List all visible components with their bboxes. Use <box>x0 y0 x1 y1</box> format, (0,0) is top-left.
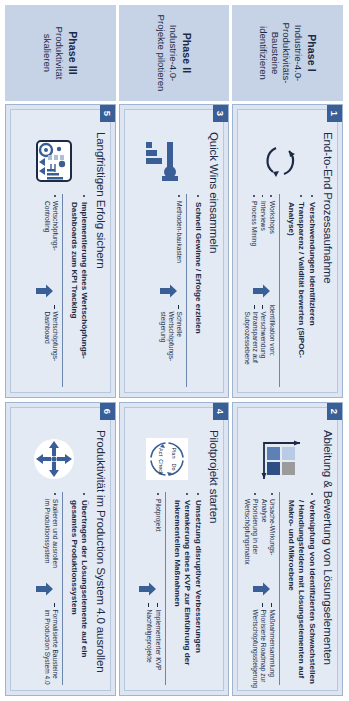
svg-text:Plan: Plan <box>171 448 177 459</box>
input-detail-list: Pilotprojekt <box>154 492 162 575</box>
input-detail-list: Ursache-Wirkungs-AnalysePriorisierung in… <box>243 492 276 575</box>
step-bullet: Verankerung eines KVP zur Einführung der… <box>172 492 193 685</box>
step-card-inner: Pilotprojekt startenPlanDoActCheckUmsetz… <box>124 407 225 691</box>
output-detail-list: Schnelle Wertschöpfungs-steigerung <box>159 305 184 388</box>
step-card-inner: Quick Wins einsammelnSchnell Gewinne / E… <box>124 109 225 393</box>
step-title: Pilotprojekt starten <box>207 430 220 685</box>
output-detail-column: Formalisierte Bausteine im Production Sy… <box>42 603 59 686</box>
output-detail-heading: Identifikation von: <box>267 305 275 388</box>
output-detail-column: Schnelle Wertschöpfungs-steigerung <box>158 305 183 388</box>
step-body: Verknüpfung von identifizierten Schwachs… <box>242 430 317 685</box>
up-arrow-icon <box>253 283 276 299</box>
step-text-column: Verknüpfung von identifizierten Schwachs… <box>242 492 317 685</box>
step-number-badge: 3 <box>213 105 228 122</box>
step-detail-area: PilotprojektImplementierter KVPNachfolge… <box>139 492 162 685</box>
step-bullet: Transparenz / Validität bewerten (SIPOC-… <box>285 194 306 387</box>
input-detail-item: Workshops <box>267 194 275 277</box>
output-detail-item: Implementierter KVP <box>154 603 162 686</box>
phase-subtitle: Produktivität skalieren <box>42 10 65 96</box>
step-detail-area: Ursache-Wirkungs-AnalysePriorisierung in… <box>242 492 276 685</box>
output-detail-item: Schnelle Wertschöpfungs-steigerung <box>159 305 184 388</box>
input-detail-list: Methoden-baukasten <box>175 194 183 277</box>
phase-label-3: Phase IIIProduktivität skalieren <box>5 5 116 101</box>
step-card-2[interactable]: 2Ableitung & Bewertung von Lösungselemen… <box>232 402 343 696</box>
input-detail-column: Skalieren und ausrollen im Produktionssy… <box>42 492 59 575</box>
divider <box>165 492 166 685</box>
output-detail-item: Maßnahmensammlung <box>268 603 276 686</box>
phase-title: Phase III <box>66 31 79 75</box>
step-bullet: Implementierung eines Wertschöpfungs-Das… <box>69 194 90 387</box>
step-text-column: Implementierung eines Wertschöpfungs-Das… <box>15 194 90 387</box>
input-detail-item: Pilotprojekt <box>154 492 162 575</box>
step-detail-area: Wertschöpfungs-ControllingWertschöpfungs… <box>36 194 59 387</box>
output-detail-column: Implementierter KVPNachfolgeprojekte <box>145 603 162 686</box>
output-detail-column: MaßnahmensammlungPriorisierte Roadmap zu… <box>251 603 277 686</box>
output-detail-item: Verschwendung <box>259 305 267 388</box>
step-number-badge: 5 <box>100 105 115 122</box>
divider <box>186 194 187 387</box>
step-bullet: Übertragen der Lösungselemente auf ein g… <box>69 492 90 685</box>
step-bullet: Verschwendungen identifizieren <box>306 194 316 387</box>
output-detail-item: Formalisierte Bausteine im Production Sy… <box>43 603 59 686</box>
phase-cards: 5Langfristigen Erfolg sichernImplementie… <box>5 104 116 696</box>
step-bullet-list: Implementierung eines Wertschöpfungs-Das… <box>68 194 89 387</box>
svg-text:Do: Do <box>171 464 177 471</box>
input-detail-list: Skalieren und ausrollen im Produktionssy… <box>43 492 59 575</box>
output-detail-list: Formalisierte Bausteine im Production Sy… <box>43 603 59 686</box>
step-number-badge: 1 <box>327 105 342 122</box>
step-bullet-list: Verknüpfung von identifizierten Schwachs… <box>285 492 317 685</box>
pdca-cycle-icon: PlanDoActCheck <box>129 430 204 488</box>
output-detail-item: Priorisierte Roadmap zur Wertschöpfungss… <box>251 603 267 686</box>
cycle-arrows-icon <box>242 132 317 190</box>
step-body: Schnell Gewinne / Erfolge erzielenMethod… <box>129 132 204 387</box>
up-arrow-icon <box>139 581 162 597</box>
phase-subtitle: Industrie-4.0-Produktivitäts-Bausteine i… <box>257 10 304 96</box>
step-card-4[interactable]: 4Pilotprojekt startenPlanDoActCheckUmset… <box>119 402 230 696</box>
output-detail-item: Nachfolgeprojekte <box>145 603 153 686</box>
step-text-column: Verschwendungen identifizierenTransparen… <box>242 194 317 387</box>
phase-cards: 1End-to-End ProzessaufnahmeVerschwendung… <box>232 104 343 696</box>
step-card-1[interactable]: 1End-to-End ProzessaufnahmeVerschwendung… <box>232 104 343 398</box>
matrix-quadrant-icon <box>242 430 317 488</box>
step-number-badge: 2 <box>327 403 342 420</box>
input-detail-item: Skalieren und ausrollen im Produktionssy… <box>43 492 59 575</box>
phase-row-2: Phase IIIndustrie-4.0-Projekte pilotiere… <box>119 5 230 696</box>
input-detail-column: Wertschöpfungs-Controlling <box>42 194 59 277</box>
svg-text:Act: Act <box>158 448 164 456</box>
step-bullet-list: Verschwendungen identifizierenTransparen… <box>285 194 317 387</box>
phase-row-1: Phase IIndustrie-4.0-Produktivitäts-Baus… <box>232 5 343 696</box>
step-number-badge: 4 <box>213 403 228 420</box>
step-card-inner: Produktivität im Production System 4.0 a… <box>10 407 111 691</box>
input-detail-item: Ursache-Wirkungs-Analyse <box>260 492 276 575</box>
step-body: PlanDoActCheckUmsetzung disruptiver Verb… <box>129 430 204 685</box>
step-card-6[interactable]: 6Produktivität im Production System 4.0 … <box>5 402 116 696</box>
step-number-badge: 6 <box>100 403 115 420</box>
step-card-5[interactable]: 5Langfristigen Erfolg sichernImplementie… <box>5 104 116 398</box>
input-detail-item: Methoden-baukasten <box>175 194 183 277</box>
step-card-inner: Langfristigen Erfolg sichernImplementier… <box>10 109 111 393</box>
step-detail-area: Methoden-baukastenSchnelle Wertschöpfung… <box>158 194 183 387</box>
input-detail-list: Wertschöpfungs-Controlling <box>43 194 59 277</box>
phase-label-1: Phase IIndustrie-4.0-Produktivitäts-Baus… <box>232 5 343 101</box>
step-body: Übertragen der Lösungselemente auf ein g… <box>15 430 90 685</box>
step-title: Quick Wins einsammeln <box>207 132 220 387</box>
step-card-3[interactable]: 3Quick Wins einsammelnSchnell Gewinne / … <box>119 104 230 398</box>
step-bullet-list: Übertragen der Lösungselemente auf ein g… <box>68 492 89 685</box>
output-detail-column: Wertschöpfungs-Dashboard <box>42 305 59 388</box>
input-detail-column: Ursache-Wirkungs-AnalysePriorisierung in… <box>242 492 276 575</box>
output-detail-list: Wertschöpfungs-Dashboard <box>43 305 59 388</box>
step-text-column: Umsetzung disruptiver VerbesserungenVera… <box>129 492 204 685</box>
phase-label-2: Phase IIIndustrie-4.0-Projekte pilotiere… <box>119 5 230 101</box>
up-arrow-icon <box>253 581 276 597</box>
divider <box>279 492 280 685</box>
diagram-canvas: Phase IIndustrie-4.0-Produktivitäts-Baus… <box>0 0 349 701</box>
step-bullet: Schnell Gewinne / Erfolge erzielen <box>193 194 203 387</box>
phase-title: Phase II <box>180 33 193 74</box>
up-arrow-icon <box>160 283 183 299</box>
input-detail-column: Methoden-baukasten <box>175 194 184 277</box>
step-bullet: Verknüpfung von identifizierten Schwachs… <box>286 492 317 685</box>
step-body: Verschwendungen identifizierenTransparen… <box>242 132 317 387</box>
input-detail-item: Priorisierung in der Wertschöpfungsmatri… <box>243 492 259 575</box>
input-detail-item: Interviews <box>259 194 267 277</box>
step-detail-area: WorkshopsInterviewsProcess MiningIdentif… <box>242 194 275 387</box>
